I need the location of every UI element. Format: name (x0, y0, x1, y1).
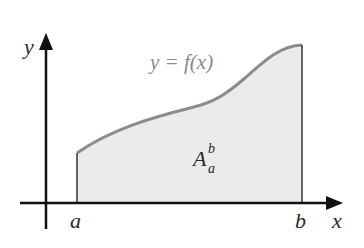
y-axis-arrow-icon (39, 33, 53, 50)
function-label: y = f(x) (150, 52, 213, 73)
x-axis-label: x (332, 210, 342, 232)
area-label-superscript: b (208, 142, 215, 156)
area-label-subscript: a (208, 162, 215, 176)
area-label-base: A (193, 146, 206, 171)
lower-bound-label: a (70, 210, 81, 232)
area-label: A b a (193, 148, 206, 170)
diagram-graphics (0, 0, 364, 248)
y-axis-label: y (24, 36, 34, 58)
upper-bound-label: b (295, 210, 306, 232)
area-under-curve-diagram: y x a b y = f(x) A b a (0, 0, 364, 248)
